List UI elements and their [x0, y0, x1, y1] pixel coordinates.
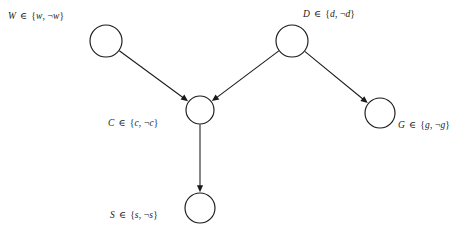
arrowhead-w-to-c	[181, 95, 188, 102]
node-s[interactable]	[185, 193, 215, 223]
node-label-c: C ∈ {c, ¬c}	[108, 119, 159, 129]
arrowhead-c-to-s	[197, 185, 203, 192]
node-label-s: S ∈ {s, ¬s}	[110, 211, 158, 221]
bayesian-network-graph	[0, 0, 463, 239]
node-label-w: W ∈ {w, ¬w}	[8, 12, 64, 22]
arrowhead-d-to-c	[212, 94, 219, 101]
edge-w-to-c	[119, 51, 183, 98]
edge-d-to-g	[305, 51, 363, 99]
node-w[interactable]	[90, 25, 122, 57]
node-d[interactable]	[276, 25, 308, 57]
edge-d-to-c	[217, 51, 279, 98]
diagram-canvas: W ∈ {w, ¬w}D ∈ {d, ¬d}C ∈ {c, ¬c}G ∈ {g,…	[0, 0, 463, 239]
node-c[interactable]	[186, 96, 214, 124]
node-label-d: D ∈ {d, ¬d}	[303, 10, 355, 20]
node-label-g: G ∈ {g, ¬g}	[398, 121, 450, 131]
node-g[interactable]	[365, 98, 395, 128]
